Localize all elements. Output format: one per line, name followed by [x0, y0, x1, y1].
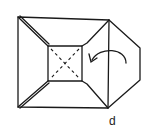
edge-bottom-left — [18, 81, 48, 107]
origami-diagram — [0, 0, 147, 131]
edge-top-right — [82, 20, 109, 46]
side-flap — [108, 20, 140, 108]
edge-top-left — [18, 17, 48, 46]
edge-bottom-left-inner — [20, 83, 49, 108]
step-label: d — [109, 115, 116, 127]
edge-top-left-inner — [20, 16, 49, 44]
edge-bottom-right — [82, 81, 108, 108]
